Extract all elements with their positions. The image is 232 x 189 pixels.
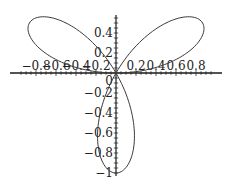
y-tick-label: −0.4: [84, 106, 114, 120]
rose-curve-plot: −0.8−0.6−0.4−0.20.20.40.60.8 0.40.2−0.2−…: [0, 0, 232, 189]
y-tick-label: −0.6: [84, 126, 113, 140]
y-tick-label: 0.2: [94, 46, 113, 60]
y-tick-label: 0.4: [94, 26, 113, 40]
y-tick-label: −1: [95, 166, 113, 180]
x-tick-label: 0.4: [146, 59, 165, 73]
x-tick-label: 0.8: [186, 59, 205, 73]
x-tick-labels: −0.8−0.6−0.4−0.20.20.40.60.8: [21, 59, 205, 73]
x-tick-label: 0.6: [166, 59, 185, 73]
y-axis: [114, 15, 118, 176]
x-tick-label: −0.2: [81, 59, 110, 73]
